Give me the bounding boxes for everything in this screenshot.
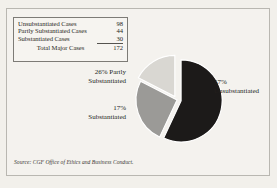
- legend-table-box: Unsubstantiated Cases 98 Partly Substant…: [13, 17, 128, 62]
- callout-substantiated-name: Substantiated: [48, 113, 126, 122]
- callout-partly-percent: 26% Partly: [52, 68, 126, 77]
- table-row-total: Total Major Cases 172: [18, 44, 123, 52]
- callout-substantiated: 17% Substantiated: [48, 104, 126, 121]
- source-note: Source: CGF Office of Ethics and Busines…: [14, 159, 134, 165]
- legend-value-total: 172: [97, 44, 123, 52]
- figure-container: Unsubstantiated Cases 98 Partly Substant…: [0, 0, 277, 188]
- callout-unsubstantiated-percent: 57%: [214, 78, 274, 87]
- callout-unsubstantiated: 57% Unsubstantiated: [214, 78, 274, 95]
- legend-table: Unsubstantiated Cases 98 Partly Substant…: [18, 20, 123, 52]
- table-row: Substantiated Cases 30: [18, 36, 123, 44]
- callout-substantiated-percent: 17%: [48, 104, 126, 113]
- pie-chart-svg: [130, 53, 224, 147]
- legend-label-partly-substantiated: Partly Substantiated Cases: [18, 28, 97, 36]
- pie-chart: [130, 53, 224, 147]
- pie-slices: [136, 55, 222, 142]
- callout-partly-name: Substantiated: [52, 77, 126, 86]
- callout-unsubstantiated-name: Unsubstantiated: [214, 87, 274, 96]
- legend-label-substantiated: Substantiated Cases: [18, 36, 97, 44]
- table-row: Partly Substantiated Cases 44: [18, 28, 123, 36]
- callout-partly-substantiated: 26% Partly Substantiated: [52, 68, 126, 85]
- legend-value-substantiated: 30: [97, 36, 123, 44]
- legend-label-total: Total Major Cases: [18, 44, 97, 52]
